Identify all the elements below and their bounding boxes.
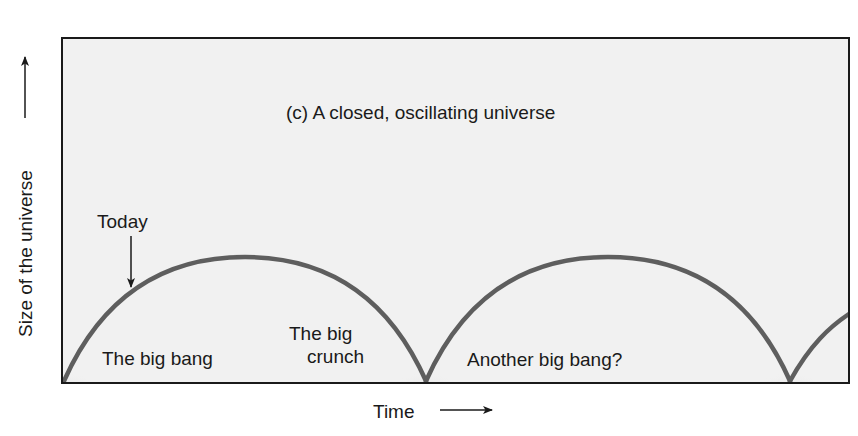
y-axis-label: Size of the universe <box>15 170 36 337</box>
diagram-title: (c) A closed, oscillating universe <box>286 102 555 123</box>
today-label: Today <box>97 211 148 232</box>
x-axis-label: Time <box>373 401 415 422</box>
big-crunch-label-line1: The big <box>289 323 352 344</box>
another-big-bang-label: Another big bang? <box>467 349 622 370</box>
big-crunch-label-line2: crunch <box>307 346 364 367</box>
big-bang-label: The big bang <box>102 348 213 369</box>
oscillating-universe-diagram: (c) A closed, oscillating universe Today… <box>0 0 858 436</box>
